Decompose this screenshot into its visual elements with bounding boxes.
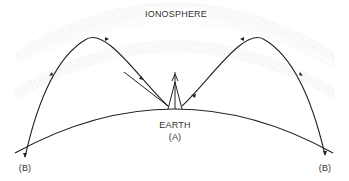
ionosphere-label: IONOSPHERE xyxy=(145,10,207,19)
arrow-right-4 xyxy=(323,151,327,156)
arrow-right-2 xyxy=(240,37,244,41)
receiver-left-label: (B) xyxy=(19,164,32,173)
arrow-left-2 xyxy=(105,37,109,41)
transmitter-label: (A) xyxy=(169,133,182,142)
receiver-right-label: (B) xyxy=(319,164,332,173)
arrow-left-4 xyxy=(23,153,27,158)
arrow-left-1 xyxy=(139,76,144,80)
ray-left-up xyxy=(124,72,168,106)
antenna-icon xyxy=(168,72,182,109)
earth-label: EARTH xyxy=(159,121,190,130)
skywave-diagram xyxy=(0,0,349,181)
earth-surface xyxy=(15,109,333,153)
